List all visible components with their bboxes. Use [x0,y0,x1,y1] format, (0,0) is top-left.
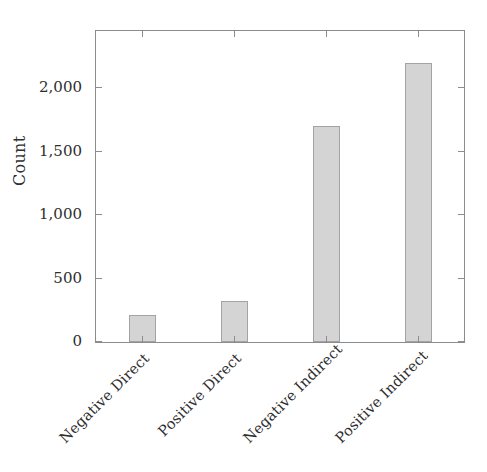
x-axis-tick-label: Negative Direct [56,350,152,446]
y-axis-tick-labels: 05001,0001,5002,000 [0,30,88,343]
y-axis-tick [96,214,102,215]
x-axis-tick [418,336,419,342]
y-axis-tick [458,214,464,215]
bar [313,126,340,342]
y-axis-tick [458,151,464,152]
x-axis-tick [142,336,143,342]
x-axis-tick [326,336,327,342]
y-axis-tick-label: 2,000 [39,78,82,96]
y-axis-tick [458,341,464,342]
y-axis-tick [458,278,464,279]
y-axis-tick-label: 1,500 [39,142,82,160]
x-axis-tick-label: Negative Indirect [240,350,336,446]
bar-chart-figure: Count 05001,0001,5002,000 Negative Direc… [0,0,487,472]
y-axis-tick [96,278,102,279]
plot-area [95,30,465,343]
x-axis-tick [326,31,327,37]
y-axis-tick-label: 1,000 [39,205,82,223]
y-axis-tick [96,87,102,88]
x-axis-tick [418,31,419,37]
y-axis-tick [96,151,102,152]
x-axis-tick [234,336,235,342]
y-axis-tick [458,87,464,88]
x-axis-tick [234,31,235,37]
y-axis-tick [96,341,102,342]
bar [405,63,432,342]
x-axis-tick-label: Positive Indirect [332,350,428,446]
x-axis-tick [142,31,143,37]
x-axis-tick-label: Positive Direct [148,350,244,446]
y-axis-tick-label: 500 [53,269,82,287]
y-axis-tick-label: 0 [72,332,82,350]
